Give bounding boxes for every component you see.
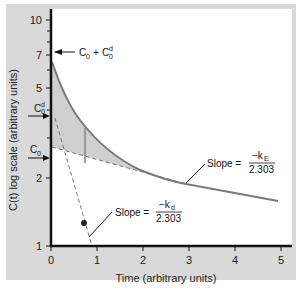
chart: 10 7 5 2 1 0 1 2 3 4 5 Time (arbitrary u… bbox=[0, 0, 299, 296]
x-tick-3: 3 bbox=[186, 254, 192, 266]
x-tick-2: 2 bbox=[140, 254, 146, 266]
svg-text:E: E bbox=[264, 155, 269, 162]
y-tick-7: 7 bbox=[36, 49, 42, 61]
svg-text:0: 0 bbox=[86, 53, 90, 60]
svg-text:2.303: 2.303 bbox=[156, 213, 181, 224]
svg-text:d: d bbox=[41, 101, 45, 108]
y-tick-2: 2 bbox=[36, 172, 42, 184]
svg-text:2.303: 2.303 bbox=[249, 164, 274, 175]
x-tick-5: 5 bbox=[278, 254, 284, 266]
arrow-right-icon bbox=[43, 113, 50, 119]
svg-text:−k: −k bbox=[159, 199, 171, 210]
svg-text:Slope =: Slope = bbox=[207, 158, 241, 169]
x-axis-title: Time (arbitrary units) bbox=[115, 272, 216, 284]
svg-text:Slope =: Slope = bbox=[115, 207, 149, 218]
c0-annotation: C 0 bbox=[28, 144, 50, 161]
svg-text:d: d bbox=[109, 45, 113, 52]
y-tick-1: 1 bbox=[36, 240, 42, 252]
x-tick-1: 1 bbox=[94, 254, 100, 266]
x-tick-0: 0 bbox=[48, 254, 54, 266]
svg-text:0: 0 bbox=[37, 150, 41, 157]
y-tick-10: 10 bbox=[30, 14, 42, 26]
svg-text:0: 0 bbox=[109, 53, 113, 60]
y-axis-title: C(t) log scale (arbitrary units) bbox=[7, 69, 19, 211]
svg-text:+: + bbox=[93, 47, 99, 58]
y-tick-5: 5 bbox=[36, 82, 42, 94]
cd0-annotation: C d 0 bbox=[28, 101, 50, 119]
arrow-right-icon bbox=[43, 155, 50, 161]
x-tick-4: 4 bbox=[232, 254, 238, 266]
svg-text:d: d bbox=[171, 204, 175, 211]
svg-text:−k: −k bbox=[252, 150, 264, 161]
data-point bbox=[81, 220, 87, 226]
